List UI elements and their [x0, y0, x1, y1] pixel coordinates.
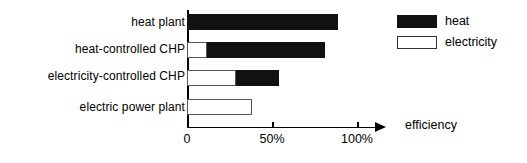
x-tick-label-50: 50% — [259, 132, 284, 146]
legend-item-heat: heat — [397, 12, 497, 30]
bar-segment-heat — [187, 14, 338, 30]
bar-segment-electricity — [187, 99, 252, 115]
x-tick-0 — [187, 122, 189, 127]
legend-swatch-electricity — [397, 36, 437, 49]
legend-swatch-heat — [397, 15, 437, 28]
legend-item-electricity: electricity — [397, 33, 497, 51]
x-tick-label-0: 0 — [184, 132, 191, 146]
category-label-electricity-controlled-chp: electricity-controlled CHP — [48, 69, 185, 83]
legend-label-electricity: electricity — [445, 35, 497, 49]
bar-segment-electricity — [187, 70, 236, 86]
category-label-heat-plant: heat plant — [131, 15, 185, 29]
right-arrow-icon — [375, 122, 386, 132]
x-tick-50 — [272, 122, 274, 127]
bar-segment-electricity — [187, 42, 207, 58]
bar-segment-heat — [207, 42, 324, 58]
legend: heat electricity — [397, 12, 497, 54]
x-tick-100 — [357, 122, 359, 127]
x-tick-label-100: 100% — [341, 132, 373, 146]
x-axis-title: efficiency — [405, 118, 457, 132]
bar-segment-heat — [236, 70, 279, 86]
efficiency-bar-chart: heat plant heat-controlled CHP electrici… — [0, 0, 527, 163]
x-axis-line — [187, 127, 378, 129]
category-label-heat-controlled-chp: heat-controlled CHP — [75, 42, 185, 56]
category-label-electric-power-plant: electric power plant — [80, 100, 185, 114]
legend-label-heat: heat — [445, 14, 469, 28]
